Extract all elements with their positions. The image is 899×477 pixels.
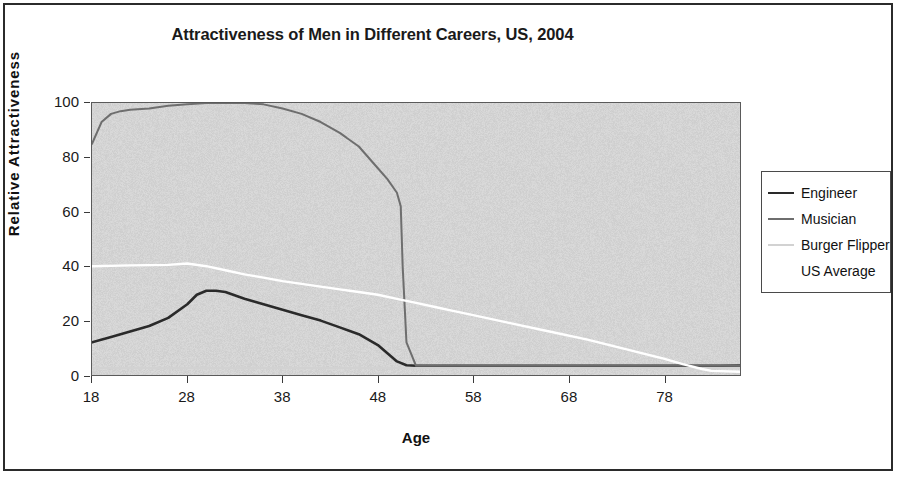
y-tick-label: 100	[39, 93, 79, 110]
legend-item-engineer[interactable]: Engineer	[762, 180, 890, 206]
y-tick-mark	[84, 321, 90, 322]
x-tick-label: 48	[353, 388, 403, 405]
x-tick-mark	[665, 376, 666, 383]
legend-item-musician[interactable]: Musician	[762, 206, 890, 232]
legend-swatch-icon	[768, 265, 794, 277]
x-tick-mark	[569, 376, 570, 383]
x-tick-mark	[473, 376, 474, 383]
series-line-us-average	[92, 263, 740, 371]
y-tick-label: 20	[39, 312, 79, 329]
x-tick-mark	[378, 376, 379, 383]
x-tick-label: 18	[66, 388, 116, 405]
plot-wrapper	[91, 102, 741, 376]
y-tick-label: 60	[39, 203, 79, 220]
series-lines	[92, 103, 740, 375]
y-tick-label: 80	[39, 148, 79, 165]
y-axis-title: Relative Attractiveness	[5, 14, 22, 274]
legend-label: Engineer	[801, 186, 857, 200]
chart-title: Attractiveness of Men in Different Caree…	[5, 25, 740, 44]
x-tick-mark	[91, 376, 92, 383]
x-axis-title: Age	[91, 429, 741, 446]
y-tick-mark	[84, 157, 90, 158]
chart-legend: EngineerMusicianBurger FlipperUS Average	[761, 171, 891, 293]
series-line-musician	[92, 103, 740, 366]
chart-frame: Attractiveness of Men in Different Caree…	[3, 3, 893, 471]
plot-area	[91, 102, 741, 376]
y-tick-label: 0	[39, 367, 79, 384]
x-tick-label: 68	[544, 388, 594, 405]
legend-label: Musician	[801, 212, 856, 226]
x-tick-label: 78	[640, 388, 690, 405]
legend-swatch-icon	[768, 213, 794, 225]
legend-label: US Average	[801, 264, 875, 278]
y-tick-mark	[84, 102, 90, 103]
x-tick-label: 58	[448, 388, 498, 405]
y-tick-mark	[84, 266, 90, 267]
y-tick-mark	[84, 376, 90, 377]
legend-swatch-icon	[768, 187, 794, 199]
x-tick-label: 28	[162, 388, 212, 405]
legend-item-us-average[interactable]: US Average	[762, 258, 890, 284]
x-tick-mark	[187, 376, 188, 383]
x-tick-mark	[282, 376, 283, 383]
y-tick-mark	[84, 212, 90, 213]
legend-swatch-icon	[768, 239, 794, 251]
x-tick-label: 38	[257, 388, 307, 405]
legend-item-burger-flipper[interactable]: Burger Flipper	[762, 232, 890, 258]
legend-label: Burger Flipper	[801, 238, 890, 252]
y-tick-label: 40	[39, 257, 79, 274]
